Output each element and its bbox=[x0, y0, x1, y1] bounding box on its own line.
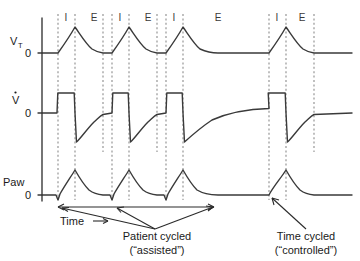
paw-label-text: Paw bbox=[3, 176, 24, 188]
leader-to-breath4 bbox=[272, 198, 306, 229]
phase-label-4: E bbox=[145, 12, 152, 23]
axis-label-flow: V 0 bbox=[12, 91, 31, 119]
vt-label-subscript: T bbox=[18, 41, 23, 50]
airway-pressure-trace bbox=[42, 170, 352, 200]
flow-trace bbox=[42, 93, 352, 142]
phase-label-7: I bbox=[276, 12, 279, 23]
vt-zero-label: 0 bbox=[25, 47, 31, 59]
time-cycled-leader bbox=[272, 198, 306, 229]
tidal-volume-trace bbox=[42, 27, 352, 53]
patient-cycled-label: Patient cycled (“assisted”) bbox=[123, 230, 191, 256]
time-axis-arrow bbox=[58, 204, 214, 210]
flow-label-letter: V bbox=[12, 94, 20, 106]
time-cycled-line1: Time cycled bbox=[277, 230, 335, 242]
patient-cycled-line1: Patient cycled bbox=[123, 230, 191, 242]
paw-zero-label: 0 bbox=[25, 189, 31, 201]
phase-label-6: E bbox=[215, 12, 222, 23]
phase-label-5: I bbox=[173, 12, 176, 23]
time-label: Time bbox=[60, 215, 84, 227]
phase-label-8: E bbox=[299, 12, 306, 23]
phase-gridlines bbox=[58, 14, 314, 200]
vt-label-letter: V bbox=[10, 35, 18, 47]
flow-zero-label: 0 bbox=[25, 107, 31, 119]
axis-label-vt: V T 0 bbox=[10, 35, 31, 59]
leader-to-breath3 bbox=[155, 207, 213, 229]
waveform-svg: I E I E I E I E V T 0 V 0 Paw 0 bbox=[0, 0, 360, 261]
patient-cycled-line2: (“assisted”) bbox=[129, 244, 184, 256]
phase-label-2: E bbox=[91, 12, 98, 23]
phase-label-3: I bbox=[119, 12, 122, 23]
patient-cycled-leaders bbox=[62, 206, 213, 229]
axis-label-paw: Paw 0 bbox=[3, 176, 31, 201]
time-cycled-line2: (“controlled”) bbox=[275, 244, 337, 256]
flow-dot-icon bbox=[14, 91, 16, 93]
phase-label-1: I bbox=[65, 12, 68, 23]
time-cycled-label: Time cycled (“controlled”) bbox=[275, 230, 337, 256]
phase-label-row: I E I E I E I E bbox=[65, 12, 306, 23]
ventilator-waveform-figure: I E I E I E I E V T 0 V 0 Paw 0 bbox=[0, 0, 360, 261]
leader-to-breath2 bbox=[117, 208, 155, 229]
